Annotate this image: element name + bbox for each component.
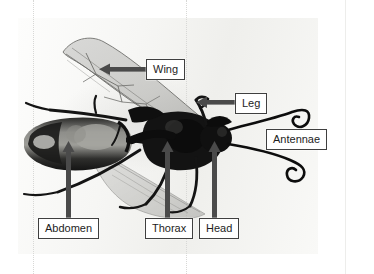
thorax-arrow [162, 141, 174, 219]
label-thorax[interactable]: Thorax [145, 218, 193, 239]
wing-arrow [99, 64, 147, 75]
abdomen-arrow [63, 141, 75, 219]
label-abdomen[interactable]: Abdomen [38, 218, 99, 239]
label-antennae[interactable]: Antennae [266, 129, 327, 150]
head-arrow [209, 141, 221, 219]
label-head[interactable]: Head [199, 218, 239, 239]
figure-canvas: Wing Leg Antennae Abdomen Thorax Head [0, 0, 374, 274]
label-wing[interactable]: Wing [146, 59, 185, 80]
label-leg[interactable]: Leg [235, 93, 267, 114]
leg-arrow [196, 97, 236, 108]
